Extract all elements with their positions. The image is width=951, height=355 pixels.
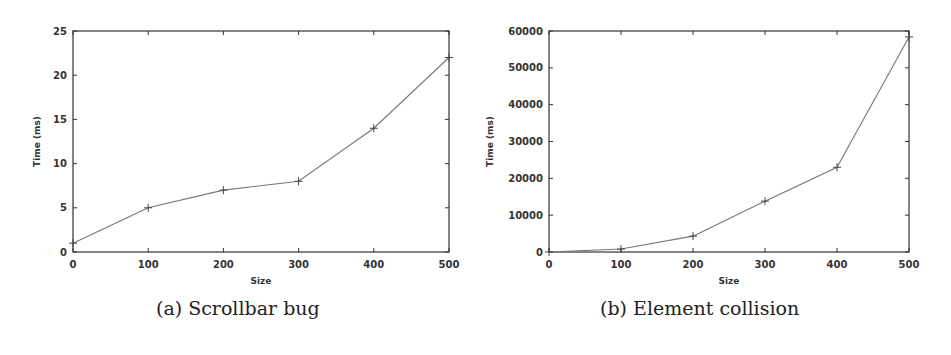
data-line — [73, 58, 449, 244]
data-point-plus-marker — [69, 239, 77, 247]
x-tick-label: 200 — [683, 259, 704, 270]
data-point-plus-marker — [761, 197, 769, 205]
x-tick-label: 500 — [899, 259, 920, 270]
x-tick-label: 0 — [70, 259, 77, 270]
data-point-plus-marker — [545, 248, 553, 256]
caption-a: (a) Scrollbar bug — [156, 297, 320, 319]
data-point-plus-marker — [295, 177, 303, 185]
x-tick-label: 100 — [611, 259, 632, 270]
y-axis-label: Time (ms) — [32, 116, 42, 167]
y-tick-label: 0 — [60, 247, 67, 258]
x-axis-label: Size — [719, 276, 740, 286]
y-tick-label: 0 — [536, 247, 543, 258]
chart-panel-a: 01002003004005000510152025SizeTime (ms) … — [0, 0, 475, 355]
element-collision-chart: 0100200300400500010000200003000040000500… — [475, 0, 951, 300]
y-tick-label: 20 — [53, 70, 67, 81]
caption-b: (b) Element collision — [600, 297, 799, 319]
x-tick-label: 200 — [213, 259, 234, 270]
y-tick-label: 10000 — [508, 210, 543, 221]
x-axis-label: Size — [251, 276, 272, 286]
scrollbar-bug-chart: 01002003004005000510152025SizeTime (ms) — [0, 0, 475, 300]
x-tick-label: 0 — [546, 259, 553, 270]
chart-panel-b: 0100200300400500010000200003000040000500… — [475, 0, 951, 355]
y-tick-label: 50000 — [508, 62, 543, 73]
data-point-plus-marker — [833, 163, 841, 171]
y-tick-label: 60000 — [508, 26, 543, 37]
y-tick-label: 10 — [53, 158, 67, 169]
x-tick-label: 300 — [755, 259, 776, 270]
y-tick-label: 5 — [60, 202, 67, 213]
y-tick-label: 15 — [53, 114, 67, 125]
x-tick-label: 400 — [827, 259, 848, 270]
data-point-plus-marker — [144, 204, 152, 212]
data-point-plus-marker — [689, 232, 697, 240]
x-tick-label: 400 — [363, 259, 384, 270]
y-axis-label: Time (ms) — [485, 116, 495, 167]
data-line — [549, 37, 909, 252]
data-point-plus-marker — [905, 33, 913, 41]
plot-frame — [73, 31, 449, 252]
y-tick-label: 30000 — [508, 136, 543, 147]
x-tick-label: 300 — [288, 259, 309, 270]
data-point-plus-marker — [219, 186, 227, 194]
y-tick-label: 25 — [53, 26, 67, 37]
y-tick-label: 40000 — [508, 99, 543, 110]
x-tick-label: 500 — [439, 259, 460, 270]
y-tick-label: 20000 — [508, 173, 543, 184]
x-tick-label: 100 — [138, 259, 159, 270]
